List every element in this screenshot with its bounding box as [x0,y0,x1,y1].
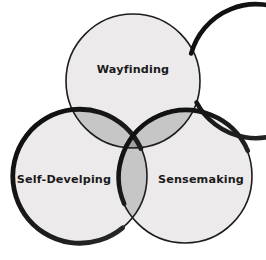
label-wayfinding: Wayfinding [97,63,169,76]
venn-diagram: Wayfinding Self-Develping Sensemaking [0,0,266,260]
label-sensemaking: Sensemaking [158,173,244,186]
venn-diagram-canvas: Wayfinding Self-Develping Sensemaking [0,0,266,260]
label-self-develping: Self-Develping [17,173,111,186]
